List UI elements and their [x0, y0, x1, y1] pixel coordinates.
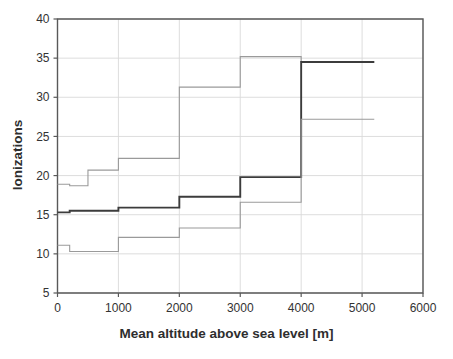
- x-tick-label: 0: [54, 301, 61, 315]
- y-tick-label: 40: [36, 12, 50, 26]
- y-tick-label: 35: [36, 51, 50, 65]
- x-tick-label: 2000: [166, 301, 193, 315]
- y-tick-label: 25: [36, 130, 50, 144]
- series-line-upper-bound: [58, 57, 375, 186]
- y-tick-label: 20: [36, 169, 50, 183]
- data-series: [58, 57, 375, 252]
- x-tick-label: 5000: [349, 301, 376, 315]
- y-tick-label: 10: [36, 247, 50, 261]
- y-axis-label-container: Ionizations: [2, 0, 32, 310]
- series-line-lower-bound: [58, 119, 375, 251]
- y-tick-label: 30: [36, 90, 50, 104]
- x-tick-label: 3000: [227, 301, 254, 315]
- chart-figure: Ionizations Mean altitude above sea leve…: [0, 0, 453, 359]
- axis-ticks: [54, 19, 424, 297]
- axis-tick-labels: 5101520253035400100020003000400050006000: [36, 12, 437, 315]
- series-line-mean: [58, 62, 375, 212]
- y-tick-label: 5: [43, 286, 50, 300]
- y-tick-label: 15: [36, 208, 50, 222]
- y-axis-label: Ionizations: [10, 120, 25, 191]
- x-axis-label: Mean altitude above sea level [m]: [0, 326, 453, 341]
- x-tick-label: 1000: [105, 301, 132, 315]
- x-tick-label: 6000: [410, 301, 437, 315]
- x-tick-label: 4000: [288, 301, 315, 315]
- chart-plot-area: 5101520253035400100020003000400050006000: [0, 0, 453, 359]
